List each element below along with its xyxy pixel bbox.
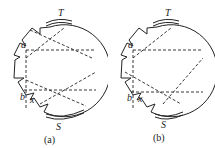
label-t: T [58, 7, 65, 18]
label-b: b [20, 91, 25, 102]
label-t: T [165, 7, 172, 18]
caption-b: (b) [153, 132, 165, 144]
label-b: b [127, 92, 132, 103]
label-x: x [29, 94, 35, 105]
label-s: S [56, 121, 61, 132]
label-x: x [137, 93, 143, 104]
diagram-panel-a: T S a b x (a) [0, 0, 108, 148]
label-s: S [161, 119, 166, 130]
caption-a: (a) [44, 134, 55, 146]
label-a: a [128, 39, 133, 50]
diagram-panel-b: T S a b x (b) [107, 0, 215, 148]
notched-circle-diagram-a: T S a b x (a) [0, 0, 108, 148]
notched-circle-diagram-b: T S a b x (b) [107, 0, 215, 148]
label-a: a [21, 39, 26, 50]
